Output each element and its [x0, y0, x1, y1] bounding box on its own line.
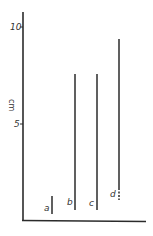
y-axis-label: cm — [7, 99, 16, 111]
label-b: b — [67, 197, 73, 207]
label-a: a — [44, 203, 50, 213]
tick-label-10: 10 — [10, 22, 22, 32]
label-d: d — [110, 189, 116, 199]
line-range-diagram: 10 5 cm a b c d — [0, 0, 153, 236]
x-axis — [22, 221, 146, 222]
tick-label-5: 5 — [14, 119, 20, 129]
label-c: c — [89, 198, 94, 208]
